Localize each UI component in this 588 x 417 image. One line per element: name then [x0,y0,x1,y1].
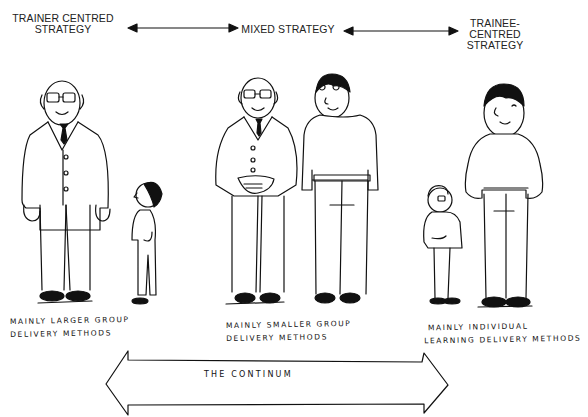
continuum-label: THE CONTINUM [204,370,293,379]
trainee-figure [302,74,378,303]
caption-line: DELIVERY METHODS [226,330,352,345]
double-arrow-icon [344,27,458,35]
caption-line: MAINLY SMALLER GROUP [226,317,352,332]
small-trainee-figure [132,182,162,304]
caption-line: LEARNING DELIVERY METHODS [424,332,581,348]
smaller-group-caption: MAINLY SMALLER GROUP DELIVERY METHODS [226,317,352,345]
double-arrow-icon [128,24,238,32]
large-trainer-figure [22,81,110,303]
caption-line: DELIVERY METHODS [10,326,130,341]
small-trainer-figure [424,186,462,304]
larger-group-caption: MAINLY LARGER GROUP DELIVERY METHODS [10,313,130,341]
illustration [0,0,588,417]
large-trainee-figure [465,84,542,307]
trainer-figure [216,78,297,304]
individual-learning-caption: MAINLY INDIVIDUAL LEARNING DELIVERY METH… [424,319,582,348]
continuum-arrow-icon [106,351,448,415]
